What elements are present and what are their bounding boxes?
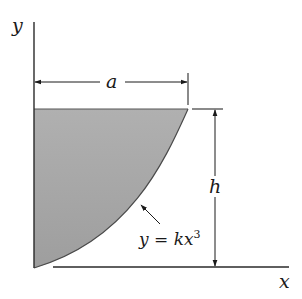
a-label: a <box>106 70 117 92</box>
y-axis-label: y <box>11 14 23 36</box>
area-diagram: y x a h y = kx3 <box>0 0 302 299</box>
curve-equation-exponent: 3 <box>194 228 201 241</box>
curve-equation-lhs: y = kx <box>138 229 194 249</box>
h-label: h <box>209 175 221 197</box>
curve-leader-arrow <box>141 205 160 224</box>
curve-equation-label: y = kx3 <box>138 228 201 249</box>
x-axis-label: x <box>279 270 290 292</box>
